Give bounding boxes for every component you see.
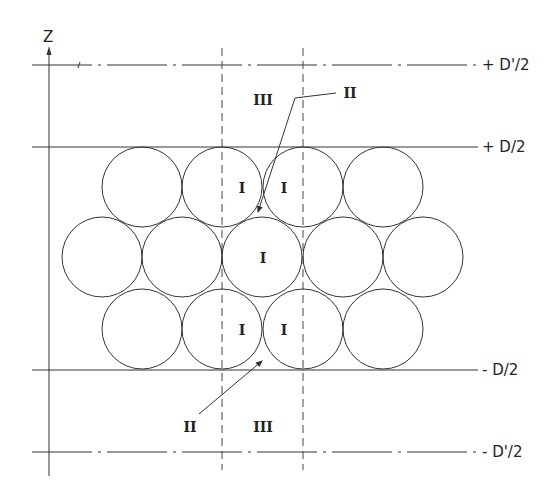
region-iii-upper: III [253,92,273,108]
label-plus-d-prime-half: + D'/2 [482,56,530,74]
leader-lines [199,93,336,414]
label-minus-d-prime-half: - D'/2 [482,443,522,461]
region-labels: III II I I I I I II III [183,85,356,435]
packing-diagram: Z + D'/2 + D/2 - D/2 - D'/2 [0,0,556,486]
label-minus-d-half: - D/2 [482,361,518,379]
z-axis-arrow-icon [47,46,52,55]
lower-leader-line [199,361,262,414]
label-plus-d-half: + D/2 [482,138,525,156]
circle [142,217,222,297]
region-i-top-right: I [281,180,288,196]
boundary-labels: + D'/2 + D/2 - D/2 - D'/2 [482,56,530,461]
region-iii-lower: III [253,419,273,435]
z-axis: Z [43,28,53,476]
circle [102,289,182,369]
region-i-center: I [260,250,267,266]
region-i-bottom-left: I [239,322,246,338]
circle [383,217,463,297]
region-i-top-left: I [239,180,246,196]
circle [343,289,423,369]
circle [303,217,383,297]
region-i-bottom-right: I [281,322,288,338]
upper-leader-line [258,93,336,212]
region-ii-upper: II [343,85,356,101]
region-ii-lower: II [183,419,196,435]
z-axis-label: Z [43,28,53,46]
circle [102,147,182,227]
boundary-lines [32,62,478,452]
circle [62,217,142,297]
circle [343,147,423,227]
